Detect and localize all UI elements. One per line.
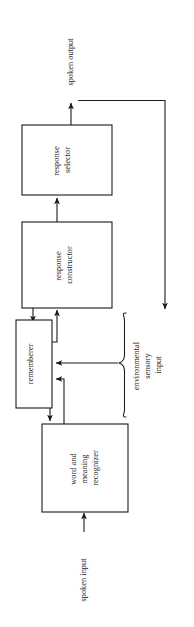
environmental-sensory-brace [119,313,126,417]
block-rememberer-line1: rememberer [26,344,35,385]
block-word-and-meaning-recognizer[interactable]: word and meaning recognizer [42,424,128,512]
label-environmental-line1: environmental [132,341,141,390]
svg-text:word and meaning: word and meaning recognizer [69,450,100,486]
label-environmental-line2: sensory [143,352,152,378]
block-rememberer[interactable]: rememberer [16,320,52,408]
block-response-constructor-line2: constructor [65,246,74,284]
svg-text:spoken input: spoken input [79,558,88,602]
svg-text:environmental sensory: environmental sensory input [132,340,163,390]
block-response-selector-line2: selector [63,147,72,173]
block-recognizer-line3: recognizer [91,450,100,486]
block-response-selector[interactable]: response selector [22,125,112,195]
block-response-constructor[interactable]: response constructor [22,222,112,308]
label-environmental-line3: input [154,356,163,374]
block-response-constructor-line1: response [54,251,63,281]
label-spoken-output: spoken output [66,38,75,86]
label-spoken-input: spoken input [79,558,88,602]
svg-text:rememberer: rememberer [26,344,35,385]
diagram-canvas: response selector response constructor r… [0,0,194,627]
block-diagram-svg: response selector response constructor r… [0,0,194,627]
block-recognizer-line1: word and [69,453,78,485]
block-recognizer-line2: meaning [80,454,89,484]
label-spoken-input-text: spoken input [79,558,88,602]
svg-text:spoken output: spoken output [66,38,75,86]
label-spoken-output-text: spoken output [66,38,75,86]
block-response-selector-line1: response [52,146,61,176]
connector-recognizer-to-rememberer [56,379,64,424]
label-environmental-sensory-input: environmental sensory input [132,340,163,390]
